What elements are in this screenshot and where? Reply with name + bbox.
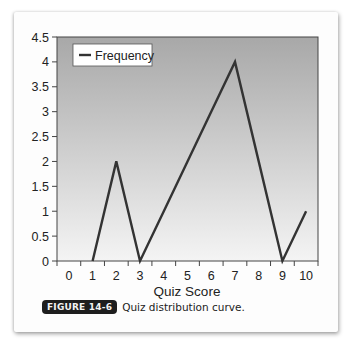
figure-badge: FIGURE 14-6 [42, 300, 117, 314]
x-tick-label: 10 [299, 269, 313, 283]
y-tick-label: 1 [42, 205, 49, 219]
y-tick-label: 3 [42, 105, 49, 119]
x-tick-label: 2 [113, 269, 120, 283]
y-tick-label: 0.5 [32, 230, 49, 244]
figure-caption: FIGURE 14-6 Quiz distribution curve. [42, 300, 245, 314]
x-tick-label: 9 [279, 269, 286, 283]
x-tick-label: 5 [184, 269, 191, 283]
y-tick-label: 0 [42, 255, 49, 269]
x-axis: 012345678910 [57, 261, 318, 283]
y-tick-label: 1.5 [32, 180, 49, 194]
x-tick-label: 6 [208, 269, 215, 283]
x-tick-label: 1 [89, 269, 96, 283]
x-axis-title: Quiz Score [154, 284, 221, 299]
y-tick-label: 4.5 [32, 31, 49, 45]
legend-label: Frequency [95, 49, 155, 63]
y-tick-label: 2 [42, 155, 49, 169]
plot-area [57, 37, 318, 261]
x-tick-label: 8 [255, 269, 262, 283]
y-tick-label: 4 [42, 55, 49, 69]
y-tick-label: 2.5 [32, 130, 49, 144]
y-axis: 00.511.522.533.544.5 [32, 31, 57, 269]
caption-text: Quiz distribution curve. [122, 301, 245, 313]
x-tick-label: 4 [160, 269, 167, 283]
y-tick-label: 3.5 [32, 80, 49, 94]
x-tick-label: 0 [65, 269, 72, 283]
x-tick-label: 3 [137, 269, 144, 283]
x-tick-label: 7 [231, 269, 238, 283]
legend: Frequency [73, 44, 155, 66]
